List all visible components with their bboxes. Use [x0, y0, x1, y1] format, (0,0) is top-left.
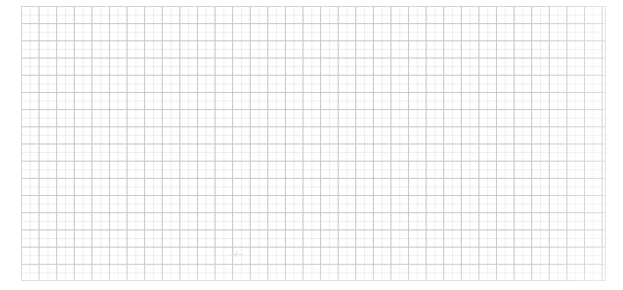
canvas-root [0, 0, 623, 290]
grid-drawing-surface[interactable] [21, 6, 606, 281]
